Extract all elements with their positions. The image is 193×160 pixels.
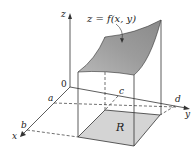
dashed-line-a xyxy=(54,103,176,107)
bound-d-label: d xyxy=(175,94,181,104)
dashed-line-d xyxy=(160,106,175,115)
region-label: R xyxy=(115,121,124,134)
x-axis-label: x xyxy=(12,131,17,141)
z-axis-arrow-icon xyxy=(68,13,72,19)
x-axis xyxy=(23,87,70,134)
origin-label: 0 xyxy=(61,79,67,89)
y-axis-label: y xyxy=(184,109,191,119)
z-axis-label: z xyxy=(60,9,66,19)
bound-a-label: a xyxy=(48,93,53,103)
bound-b-label: b xyxy=(21,120,27,130)
surface-patch xyxy=(78,20,161,75)
y-axis xyxy=(70,87,186,108)
surface-diagram: z = f(x, y) z 0 a b c d x y R xyxy=(0,0,193,160)
dashed-line-c xyxy=(105,96,118,110)
bound-c-label: c xyxy=(119,86,124,96)
surface-label: z = f(x, y) xyxy=(86,13,136,24)
dashed-line-b xyxy=(27,130,78,137)
